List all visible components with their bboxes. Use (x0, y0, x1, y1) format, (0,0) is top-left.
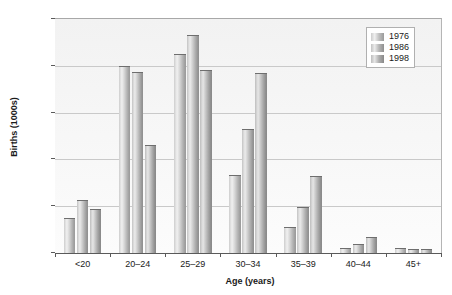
bar-top-edge (395, 248, 407, 249)
x-tick-label: 25–29 (163, 259, 223, 269)
legend-swatch-icon (371, 55, 384, 63)
x-tick-label: 45+ (383, 259, 443, 269)
x-tick-label: 40–44 (328, 259, 388, 269)
bar-fill (242, 129, 254, 253)
legend-label: 1998 (389, 54, 409, 63)
legend-item-1998: 1998 (371, 53, 409, 64)
bar-top-edge (297, 207, 309, 208)
bar-1976-35–39 (284, 227, 296, 253)
bar-fill (310, 176, 322, 253)
bar-top-edge (145, 145, 157, 146)
bar-top-edge (187, 35, 199, 36)
bar-top-edge (242, 129, 254, 130)
bar-1986-25–29 (187, 35, 199, 253)
bar-fill (132, 72, 144, 253)
bar-1998-45+ (421, 249, 433, 253)
bar-1998-40–44 (366, 237, 378, 253)
bar-fill (229, 175, 241, 253)
bar-top-edge (77, 200, 89, 201)
x-tick-label: 35–39 (273, 259, 333, 269)
bar-1976-45+ (395, 248, 407, 253)
bar-fill (353, 244, 365, 253)
y-tick-mark (51, 205, 55, 206)
x-tick-label: 20–24 (108, 259, 168, 269)
bar-fill (77, 200, 89, 253)
x-tick-mark (110, 253, 111, 257)
bar-1976-30–34 (229, 175, 241, 253)
bar-1998-<20 (90, 209, 102, 253)
legend-swatch-icon (371, 44, 384, 52)
bar-1986-35–39 (297, 207, 309, 253)
bar-chart: Births (1000s) 050100150200250 <2020–242… (0, 0, 452, 295)
bar-1998-25–29 (200, 70, 212, 253)
bar-fill (174, 54, 186, 253)
bar-1998-35–39 (310, 176, 322, 253)
bar-fill (90, 209, 102, 253)
bar-fill (284, 227, 296, 253)
legend-label: 1976 (389, 32, 409, 41)
bar-fill (145, 145, 157, 253)
x-tick-mark (55, 253, 56, 257)
y-tick-mark (51, 112, 55, 113)
bar-top-edge (421, 249, 433, 250)
x-tick-mark (331, 253, 332, 257)
gridline (55, 113, 441, 114)
bar-fill (255, 73, 267, 253)
bar-1986-45+ (408, 249, 420, 253)
bar-1986-<20 (77, 200, 89, 253)
bar-top-edge (119, 66, 131, 67)
x-tick-label: <20 (53, 259, 113, 269)
bar-1986-40–44 (353, 244, 365, 253)
bar-1986-30–34 (242, 129, 254, 253)
y-tick-mark (51, 158, 55, 159)
bar-fill (119, 66, 131, 253)
legend-swatch-icon (371, 33, 384, 41)
y-tick-mark (51, 65, 55, 66)
bar-fill (64, 218, 76, 253)
bar-1998-20–24 (145, 145, 157, 253)
y-tick-mark (51, 18, 55, 19)
y-axis-title: Births (1000s) (9, 67, 19, 187)
legend-label: 1986 (389, 43, 409, 52)
bar-1998-30–34 (255, 73, 267, 253)
bar-fill (366, 237, 378, 253)
bar-top-edge (64, 218, 76, 219)
x-tick-mark (276, 253, 277, 257)
bar-top-edge (366, 237, 378, 238)
bar-top-edge (310, 176, 322, 177)
bar-top-edge (408, 249, 420, 250)
bar-top-edge (229, 175, 241, 176)
bar-top-edge (255, 73, 267, 74)
bar-1986-20–24 (132, 72, 144, 253)
bar-top-edge (340, 248, 352, 249)
bar-1976-20–24 (119, 66, 131, 253)
bar-top-edge (200, 70, 212, 71)
bar-top-edge (90, 209, 102, 210)
bar-top-edge (132, 72, 144, 73)
bar-1976-40–44 (340, 248, 352, 253)
legend: 197619861998 (366, 27, 415, 68)
legend-item-1986: 1986 (371, 42, 409, 53)
x-tick-mark (386, 253, 387, 257)
bar-1976-25–29 (174, 54, 186, 253)
bar-top-edge (284, 227, 296, 228)
bar-fill (187, 35, 199, 253)
bar-fill (200, 70, 212, 253)
x-tick-label: 30–34 (218, 259, 278, 269)
x-tick-mark (165, 253, 166, 257)
bar-fill (297, 207, 309, 253)
x-axis-title: Age (years) (55, 276, 445, 286)
bar-top-edge (174, 54, 186, 55)
x-tick-mark (441, 253, 442, 257)
x-tick-mark (220, 253, 221, 257)
bar-top-edge (353, 244, 365, 245)
bar-1976-<20 (64, 218, 76, 253)
legend-item-1976: 1976 (371, 31, 409, 42)
